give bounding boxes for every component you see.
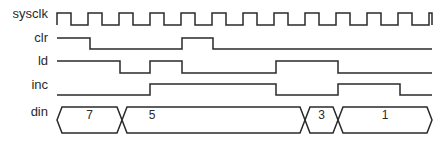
bus-value-label: 7 — [86, 108, 93, 122]
timing-diagram: sysclk clr ld inc din 7531 — [0, 0, 445, 142]
waveform-ld — [57, 61, 432, 73]
bus-value-label: 3 — [318, 108, 325, 122]
waveform-inc — [57, 84, 432, 95]
bus-value-label: 1 — [382, 108, 389, 122]
waveform-clr — [57, 38, 432, 49]
waveform-canvas: 7531 — [0, 0, 445, 142]
waveform-sysclk — [57, 13, 432, 25]
waveform-din-bus: 7531 — [57, 107, 432, 133]
bus-value-label: 5 — [149, 108, 156, 122]
